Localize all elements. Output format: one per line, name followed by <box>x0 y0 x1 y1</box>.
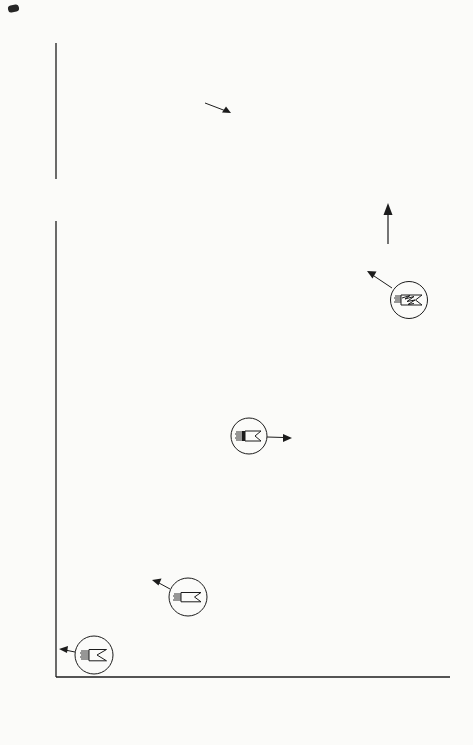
craze-tip-sketch-icon <box>75 636 113 674</box>
crack-growth-sketch-icon <box>391 282 428 319</box>
crack-in-craze-sketch-icon <box>231 418 267 454</box>
fracture-arrow <box>384 203 393 244</box>
temp-varn-arrow <box>205 103 231 113</box>
craze-growth-sketch-icon <box>169 578 207 616</box>
inset-4-arrow <box>367 271 392 288</box>
arrowhead-icon <box>59 646 68 653</box>
plot-canvas <box>0 0 473 745</box>
arrowhead-icon <box>152 579 162 586</box>
inset-2-arrow <box>152 579 170 590</box>
arrowhead-icon <box>384 203 393 215</box>
inset-3-arrow <box>267 434 292 442</box>
arrowhead-icon <box>367 271 377 279</box>
inset-circle <box>169 578 207 616</box>
inset-1-arrow <box>59 646 75 653</box>
arrowhead-icon <box>283 434 292 442</box>
inset-circle <box>75 636 113 674</box>
figure <box>0 0 473 745</box>
